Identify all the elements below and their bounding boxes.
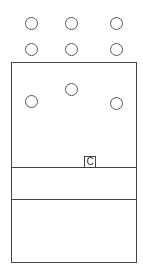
circle-row2-middle — [65, 43, 78, 56]
inner-circle-left — [25, 95, 38, 108]
divider-line-2 — [11, 199, 137, 200]
inner-circle-middle — [65, 83, 78, 96]
label-box-c: C — [84, 156, 96, 168]
circle-row2-right — [110, 43, 123, 56]
circle-row2-left — [25, 43, 38, 56]
inner-circle-right — [110, 97, 123, 110]
circle-row1-left — [25, 17, 38, 30]
divider-line-1 — [11, 167, 137, 168]
circle-row1-middle — [65, 17, 78, 30]
circle-row1-right — [110, 17, 123, 30]
